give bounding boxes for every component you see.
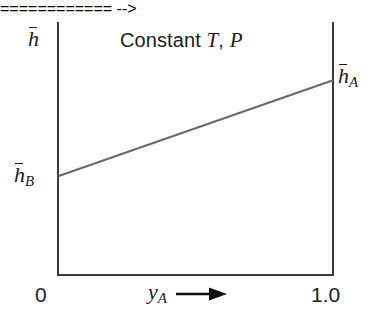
chart-title-variable-t: T [207, 28, 219, 52]
y-axis-label: h [28, 27, 39, 50]
x-tick-label-left: 0 [35, 283, 47, 307]
annotation-h-bar-a-base: h [338, 64, 349, 87]
x-axis-label-subscript: A [158, 290, 167, 306]
x-axis-label-base: y [148, 279, 158, 304]
annotation-h-bar-a-subscript: A [349, 74, 358, 90]
arrow-right-icon [176, 286, 228, 302]
chart-title-prefix: Constant [120, 29, 201, 51]
enthalpy-line [58, 80, 333, 176]
x-tick-label-right: 1.0 [311, 283, 340, 307]
annotation-h-bar-b-base: h [14, 163, 25, 186]
x-axis-label: yA [148, 281, 228, 306]
figure-partial-molar-enthalpy: h Constant T, P hA hB 0 1.0 ============… [0, 0, 372, 322]
chart-title: Constant T, P [120, 28, 243, 53]
x-axis-label-symbol: yA [148, 281, 167, 306]
chart-title-variable-p: P [230, 28, 243, 52]
annotation-h-bar-b-subscript: B [25, 173, 34, 189]
y-axis-label-symbol: h [28, 27, 39, 50]
annotation-h-bar-b: hB [14, 163, 34, 189]
annotation-h-bar-a: hA [338, 64, 358, 90]
